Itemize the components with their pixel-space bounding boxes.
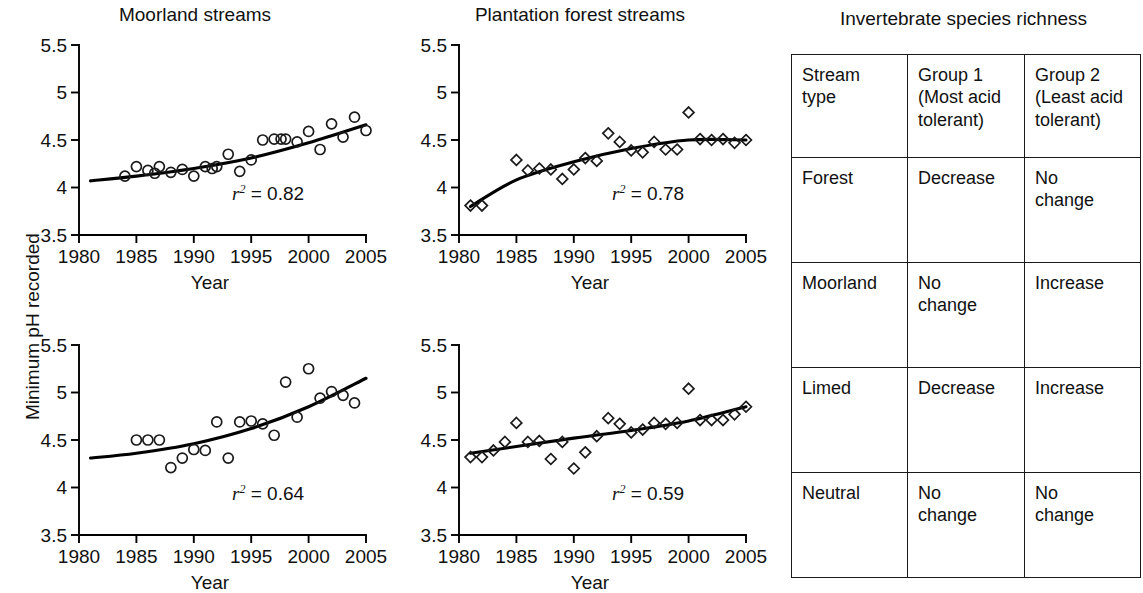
x-tick-label: 2005 [725, 246, 767, 267]
data-point-diamond [603, 128, 614, 139]
trend-line [90, 378, 366, 458]
plot-area-plantation: 3.544.555.5198019851990199520002005 [380, 22, 770, 282]
y-tick-label: 4 [56, 477, 67, 498]
r-squared-label-moorland: r2 = 0.82 [232, 182, 304, 205]
y-tick-label: 4.5 [421, 430, 447, 451]
data-point-diamond [683, 383, 694, 394]
table-cell-r1-c2: Increase [1025, 263, 1141, 368]
y-tick-label: 4.5 [41, 430, 67, 451]
table-header-cell-1: Group 1(Most acidtolerant) [908, 55, 1025, 158]
y-tick-label: 4 [436, 177, 447, 198]
data-point-circle [189, 171, 199, 181]
x-axis-label-bottom-right: Year [380, 572, 800, 593]
x-tick-label: 2000 [667, 546, 709, 567]
y-tick-label: 4 [56, 177, 67, 198]
data-point-circle [292, 412, 302, 422]
table-row: LimedDecreaseIncrease [792, 368, 1141, 473]
data-point-circle [212, 417, 222, 427]
x-tick-label: 1995 [610, 246, 652, 267]
x-tick-label: 2000 [667, 246, 709, 267]
table-cell-r0-c2: Nochange [1025, 158, 1141, 263]
table-cell-r1-c0: Moorland [792, 263, 908, 368]
data-point-circle [246, 416, 256, 426]
data-point-circle [327, 119, 337, 129]
data-point-circle [131, 162, 141, 172]
x-tick-label: 2000 [287, 546, 329, 567]
x-tick-label: 1980 [438, 546, 480, 567]
data-point-circle [235, 166, 245, 176]
x-tick-label: 1980 [438, 246, 480, 267]
x-tick-label: 1995 [610, 546, 652, 567]
data-point-diamond [568, 463, 579, 474]
y-tick-label: 5 [56, 382, 67, 403]
x-tick-label: 2005 [725, 546, 767, 567]
data-point-circle [350, 112, 360, 122]
data-point-diamond [568, 164, 579, 175]
table-row: ForestDecreaseNochange [792, 158, 1141, 263]
y-tick-label: 5 [436, 82, 447, 103]
plot-area-moorland: 3.544.555.5198019851990199520002005 [0, 22, 390, 282]
data-point-diamond [557, 174, 568, 185]
data-point-circle [154, 435, 164, 445]
r-squared-value-bottom-left: 0.64 [267, 483, 304, 504]
table-header-cell-2: Group 2(Least acidtolerant) [1025, 55, 1141, 158]
x-tick-label: 1985 [495, 246, 537, 267]
y-tick-label: 3.5 [41, 225, 67, 246]
data-point-circle [304, 126, 314, 136]
plot-area-bottom-left: 3.544.555.5198019851990199520002005 [0, 322, 390, 582]
data-point-diamond [603, 413, 614, 424]
r-squared-label-bottom-right: r2 = 0.59 [612, 482, 684, 505]
table-row: MoorlandNochangeIncrease [792, 263, 1141, 368]
y-tick-label: 5.5 [41, 335, 67, 356]
y-tick-label: 4.5 [421, 130, 447, 151]
plot-area-bottom-right: 3.544.555.5198019851990199520002005 [380, 322, 770, 582]
data-point-circle [269, 430, 279, 440]
data-point-circle [235, 417, 245, 427]
x-tick-label: 1995 [230, 546, 272, 567]
data-point-circle [315, 145, 325, 155]
data-point-diamond [511, 418, 522, 429]
y-tick-label: 3.5 [421, 225, 447, 246]
data-point-circle [258, 135, 268, 145]
data-point-circle [223, 149, 233, 159]
y-tick-label: 4.5 [41, 130, 67, 151]
data-point-diamond [683, 107, 694, 118]
y-tick-label: 5 [56, 82, 67, 103]
table-cell-r3-c2: Nochange [1025, 473, 1141, 578]
table-header-row: StreamtypeGroup 1(Most acidtolerant)Grou… [792, 55, 1141, 158]
data-point-diamond [660, 144, 671, 155]
r-squared-value-plantation: 0.78 [647, 183, 684, 204]
panel-limed-streams: 3.544.555.5198019851990199520002005 r2 =… [0, 300, 390, 586]
table-cell-r3-c0: Neutral [792, 473, 908, 578]
x-tick-label: 1980 [58, 246, 100, 267]
data-point-circle [350, 398, 360, 408]
data-point-circle [143, 435, 153, 445]
y-tick-label: 3.5 [41, 525, 67, 546]
x-tick-label: 1990 [553, 546, 595, 567]
table-row: NeutralNochangeNochange [792, 473, 1141, 578]
panel-neutral-streams: 3.544.555.5198019851990199520002005 r2 =… [380, 300, 770, 586]
data-point-diamond [718, 415, 729, 426]
x-tick-label: 1990 [173, 546, 215, 567]
data-point-diamond [614, 418, 625, 429]
table-cell-r0-c1: Decrease [908, 158, 1025, 263]
y-tick-label: 5.5 [421, 35, 447, 56]
x-axis-label-moorland: Year [0, 272, 420, 294]
table-title: Invertebrate species richness [791, 8, 1136, 30]
data-point-circle [304, 364, 314, 374]
r-squared-label-bottom-left: r2 = 0.64 [232, 482, 304, 505]
table-header-cell-0: Streamtype [792, 55, 908, 158]
data-point-diamond [580, 447, 591, 458]
data-point-diamond [672, 144, 683, 155]
data-point-diamond [500, 437, 511, 448]
data-point-circle [189, 445, 199, 455]
data-point-circle [338, 390, 348, 400]
trend-line [470, 139, 746, 206]
y-tick-label: 5.5 [41, 35, 67, 56]
axis-spine [79, 345, 366, 535]
panel-moorland-streams: Moorland streams 3.544.555.5198019851990… [0, 0, 390, 300]
data-point-circle [281, 377, 291, 387]
table-cell-r2-c1: Decrease [908, 368, 1025, 473]
data-point-circle [200, 445, 210, 455]
y-tick-label: 5 [436, 382, 447, 403]
